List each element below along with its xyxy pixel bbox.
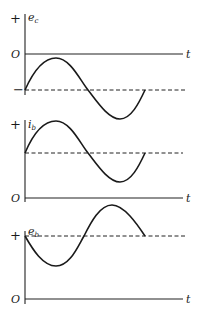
ec-minus-label: − <box>13 82 24 97</box>
ib-y-label: ib <box>28 118 37 132</box>
ec-waveform <box>25 58 145 119</box>
waveform-diagram: + ec O − t + ib O t + eb O t <box>0 0 204 321</box>
panel-ec: + ec O − t <box>10 11 191 119</box>
eb-plus-label: + <box>10 228 21 243</box>
ib-waveform <box>25 121 145 182</box>
ib-origin-label: O <box>11 192 20 205</box>
eb-y-label: eb <box>28 225 40 239</box>
eb-waveform <box>25 205 145 266</box>
panel-eb: + eb O t <box>10 205 191 306</box>
ib-plus-label: + <box>10 117 21 132</box>
ib-t-label: t <box>186 192 191 205</box>
ec-t-label: t <box>186 48 191 61</box>
ec-plus-label: + <box>10 11 21 26</box>
eb-t-label: t <box>186 293 191 306</box>
ec-y-label: ec <box>28 11 39 25</box>
ec-origin-label: O <box>11 48 20 61</box>
panel-ib: + ib O t <box>10 117 191 205</box>
eb-origin-label: O <box>11 293 20 306</box>
